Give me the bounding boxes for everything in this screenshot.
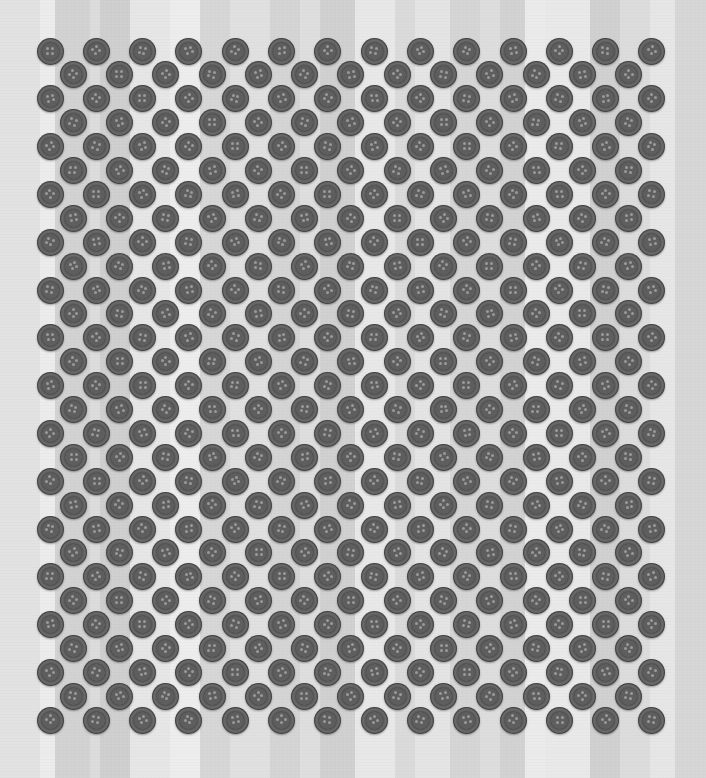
sewing-button xyxy=(152,683,179,710)
sewing-button xyxy=(430,157,457,184)
button-hole-icon xyxy=(370,143,373,146)
button-hole-icon xyxy=(164,602,167,605)
sewing-button xyxy=(60,253,87,280)
button-hole-icon xyxy=(232,332,235,335)
button-hole-icon xyxy=(439,313,442,316)
sewing-button xyxy=(453,516,480,543)
button-hole-icon xyxy=(446,170,449,173)
button-hole-icon xyxy=(166,458,169,461)
sewing-button xyxy=(592,85,619,112)
button-hole-icon xyxy=(394,691,397,694)
button-hole-icon xyxy=(93,530,96,533)
button-hole-icon xyxy=(512,196,515,199)
button-hole-icon xyxy=(68,122,71,125)
button-hole-icon xyxy=(121,263,124,266)
button-hole-icon xyxy=(624,409,627,412)
sewing-button xyxy=(175,133,202,160)
button-hole-icon xyxy=(561,622,564,625)
button-hole-icon xyxy=(538,504,541,507)
button-hole-icon xyxy=(327,626,330,629)
button-hole-icon xyxy=(509,47,512,50)
button-hole-icon xyxy=(492,360,495,363)
button-hole-icon xyxy=(346,168,349,171)
sewing-button xyxy=(60,61,87,88)
button-hole-icon xyxy=(439,454,442,457)
button-hole-icon xyxy=(284,384,287,387)
button-hole-icon xyxy=(140,196,143,199)
sewing-button xyxy=(152,205,179,232)
button-hole-icon xyxy=(51,525,54,528)
button-hole-icon xyxy=(300,697,303,700)
button-hole-icon xyxy=(419,387,422,390)
button-hole-icon xyxy=(69,263,72,266)
sewing-button xyxy=(615,157,642,184)
sewing-button xyxy=(37,181,64,208)
button-hole-icon xyxy=(232,434,235,437)
button-hole-icon xyxy=(394,165,397,168)
button-hole-icon xyxy=(370,333,373,336)
button-hole-icon xyxy=(68,599,71,602)
button-hole-icon xyxy=(492,553,495,556)
button-hole-icon xyxy=(468,334,471,337)
button-hole-icon xyxy=(490,219,493,222)
button-hole-icon xyxy=(652,434,655,437)
sewing-button xyxy=(638,563,665,590)
button-hole-icon xyxy=(624,311,627,314)
sewing-button xyxy=(268,468,295,495)
button-hole-icon xyxy=(608,479,611,482)
button-hole-icon xyxy=(122,169,125,172)
sewing-button xyxy=(592,277,619,304)
button-hole-icon xyxy=(535,76,538,79)
button-hole-icon xyxy=(207,362,210,365)
button-hole-icon xyxy=(578,553,581,556)
button-hole-icon xyxy=(119,554,122,557)
button-hole-icon xyxy=(283,239,286,242)
button-hole-icon xyxy=(417,525,420,528)
button-hole-icon xyxy=(260,647,263,650)
button-hole-icon xyxy=(120,643,123,646)
button-hole-icon xyxy=(531,410,534,413)
button-hole-icon xyxy=(533,69,536,72)
button-hole-icon xyxy=(533,171,536,174)
button-hole-icon xyxy=(329,143,332,146)
sewing-button xyxy=(592,420,619,447)
sewing-button xyxy=(245,157,272,184)
sewing-button xyxy=(453,611,480,638)
sewing-button xyxy=(638,324,665,351)
button-hole-icon xyxy=(235,339,238,342)
button-hole-icon xyxy=(255,315,258,318)
button-hole-icon xyxy=(45,528,48,531)
button-hole-icon xyxy=(512,435,515,438)
sewing-button xyxy=(152,300,179,327)
button-hole-icon xyxy=(121,122,124,125)
button-hole-icon xyxy=(351,404,354,407)
sewing-button xyxy=(384,157,411,184)
button-hole-icon xyxy=(399,552,402,555)
button-hole-icon xyxy=(629,453,632,456)
button-hole-icon xyxy=(369,51,372,54)
sewing-button xyxy=(152,253,179,280)
button-hole-icon xyxy=(373,243,376,246)
button-hole-icon xyxy=(139,571,142,574)
button-hole-icon xyxy=(465,243,468,246)
button-hole-icon xyxy=(282,291,285,294)
button-hole-icon xyxy=(237,434,240,437)
sewing-button xyxy=(106,253,133,280)
button-hole-icon xyxy=(399,693,402,696)
button-hole-icon xyxy=(602,100,605,103)
button-hole-icon xyxy=(440,70,443,73)
button-hole-icon xyxy=(237,241,240,244)
sewing-button xyxy=(83,611,110,638)
button-hole-icon xyxy=(584,408,587,411)
button-hole-icon xyxy=(323,715,326,718)
button-hole-icon xyxy=(446,456,449,459)
button-hole-icon xyxy=(580,213,583,216)
button-hole-icon xyxy=(647,145,650,148)
sewing-button xyxy=(222,659,249,686)
button-hole-icon xyxy=(47,100,50,103)
button-hole-icon xyxy=(185,476,188,479)
button-hole-icon xyxy=(508,95,511,98)
button-hole-icon xyxy=(166,219,169,222)
sewing-button xyxy=(592,229,619,256)
button-hole-icon xyxy=(605,530,608,533)
